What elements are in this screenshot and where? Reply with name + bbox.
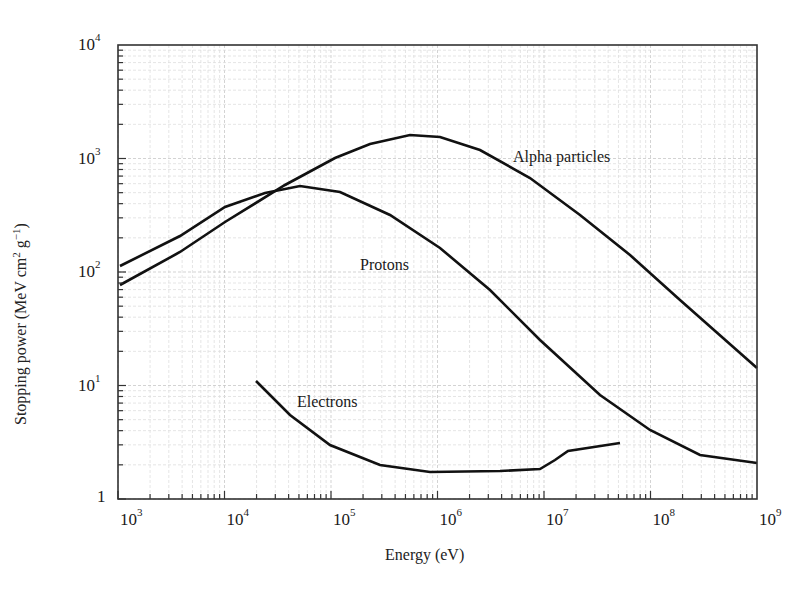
y-tick-label: 101 xyxy=(78,374,101,396)
x-tick-label: 108 xyxy=(653,508,676,530)
alpha-curve xyxy=(120,135,757,368)
x-tick-label: 109 xyxy=(759,508,782,530)
x-tick-label: 106 xyxy=(440,508,463,530)
y-axis-label: Stopping power (MeV cm2 g−1) xyxy=(10,223,30,425)
curves xyxy=(120,135,757,472)
alpha-label: Alpha particles xyxy=(513,148,610,166)
axis-ticks xyxy=(118,50,752,499)
protons-label: Protons xyxy=(360,256,409,274)
y-tick-label: 103 xyxy=(78,147,101,169)
grid xyxy=(118,45,757,499)
x-tick-label: 104 xyxy=(227,508,250,530)
x-tick-label: 103 xyxy=(120,508,143,530)
y-tick-label: 1 xyxy=(97,487,106,507)
electrons-label: Electrons xyxy=(297,393,357,411)
y-tick-label: 104 xyxy=(78,33,101,55)
y-tick-label: 102 xyxy=(78,260,101,282)
x-tick-label: 105 xyxy=(333,508,356,530)
x-axis-label: Energy (eV) xyxy=(385,546,464,564)
x-tick-label: 107 xyxy=(546,508,569,530)
